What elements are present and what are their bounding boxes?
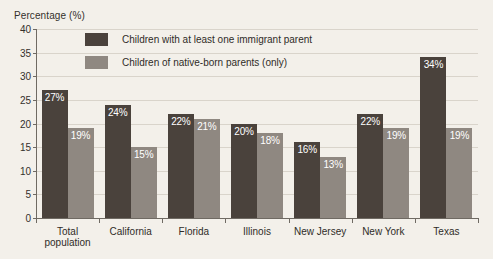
bar: 24% [105, 105, 131, 218]
x-axis-tick [162, 218, 163, 223]
bar: 22% [357, 114, 383, 218]
bar-value-label: 18% [257, 135, 283, 146]
legend-swatch-native-born [85, 56, 108, 69]
x-axis-tick [36, 218, 37, 223]
y-tick-mark-25 [33, 100, 37, 101]
x-axis-label: Texas [415, 226, 478, 237]
bar-value-label: 34% [420, 59, 446, 70]
bar-value-label: 15% [131, 149, 157, 160]
bar: 16% [294, 142, 320, 218]
bar-value-label: 13% [320, 159, 346, 170]
y-tick-label-15: 15 [0, 142, 31, 153]
bar-chart: Percentage (%) 27%19%24%15%22%21%20%18%1… [0, 0, 493, 259]
y-tick-label-5: 5 [0, 189, 31, 200]
x-axis-label-line1: New Jersey [289, 226, 352, 237]
bar: 13% [320, 157, 346, 218]
y-tick-mark-30 [33, 76, 37, 77]
bar: 19% [446, 128, 472, 218]
x-axis-label-line1: Illinois [225, 226, 288, 237]
bar: 15% [131, 147, 157, 218]
y-tick-label-35: 35 [0, 47, 31, 58]
y-tick-mark-20 [33, 124, 37, 125]
bar-value-label: 19% [383, 130, 409, 141]
legend-swatch-immigrant-parent [85, 33, 108, 46]
x-axis-label-line1: Texas [415, 226, 478, 237]
x-axis-label: New Jersey [289, 226, 352, 237]
bar-value-label: 24% [105, 107, 131, 118]
bar-value-label: 20% [231, 126, 257, 137]
bar-value-label: 22% [357, 116, 383, 127]
x-axis-tick [289, 218, 290, 223]
x-axis-label-line2: population [36, 237, 99, 248]
bar: 22% [168, 114, 194, 218]
bar-value-label: 19% [446, 130, 472, 141]
bar-value-label: 21% [194, 121, 220, 132]
gridline-0 [36, 218, 478, 219]
bar-value-label: 27% [42, 92, 68, 103]
bar-group: 16%13% [294, 29, 346, 218]
bar: 34% [420, 57, 446, 218]
x-axis-tick [352, 218, 353, 223]
x-axis-label-line1: New York [352, 226, 415, 237]
bar: 21% [194, 119, 220, 218]
y-tick-mark-10 [33, 171, 37, 172]
y-tick-label-0: 0 [0, 213, 31, 224]
y-tick-label-20: 20 [0, 118, 31, 129]
y-tick-label-40: 40 [0, 24, 31, 35]
y-tick-mark-15 [33, 147, 37, 148]
x-axis-label: New York [352, 226, 415, 237]
x-axis-tick [415, 218, 416, 223]
bar: 18% [257, 133, 283, 218]
bar: 20% [231, 124, 257, 219]
bar-value-label: 16% [294, 144, 320, 155]
legend-item-immigrant-parent: Children with at least one immigrant par… [85, 33, 312, 46]
bar-group: 22%19% [357, 29, 409, 218]
x-axis-label: Illinois [225, 226, 288, 237]
x-axis-label: California [99, 226, 162, 237]
x-axis-tick [478, 218, 479, 223]
bar-value-label: 22% [168, 116, 194, 127]
y-tick-mark-35 [33, 53, 37, 54]
y-tick-mark-5 [33, 194, 37, 195]
bar: 19% [383, 128, 409, 218]
y-tick-label-30: 30 [0, 71, 31, 82]
legend-label-immigrant-parent: Children with at least one immigrant par… [122, 34, 312, 45]
bar: 19% [68, 128, 94, 218]
bar-value-label: 19% [68, 130, 94, 141]
y-tick-label-25: 25 [0, 94, 31, 105]
bar: 27% [42, 90, 68, 218]
x-axis-label: Florida [162, 226, 225, 237]
x-axis-label-line1: California [99, 226, 162, 237]
legend-item-native-born: Children of native-born parents (only) [85, 56, 287, 69]
legend-label-native-born: Children of native-born parents (only) [122, 57, 287, 68]
x-axis-label-line1: Total [36, 226, 99, 237]
y-tick-label-10: 10 [0, 165, 31, 176]
bar-group: 34%19% [420, 29, 472, 218]
y-tick-mark-40 [33, 29, 37, 30]
x-axis-tick [99, 218, 100, 223]
y-axis-title: Percentage (%) [14, 10, 85, 21]
x-axis-label: Totalpopulation [36, 226, 99, 248]
x-axis-tick [225, 218, 226, 223]
x-axis-label-line1: Florida [162, 226, 225, 237]
